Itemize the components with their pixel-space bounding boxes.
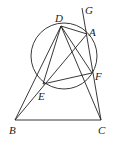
segment-D-A bbox=[61, 26, 87, 34]
label-B: B bbox=[9, 124, 16, 136]
label-D: D bbox=[54, 12, 63, 24]
line-G-C bbox=[82, 8, 101, 120]
label-C: C bbox=[98, 124, 106, 136]
label-A: A bbox=[88, 26, 96, 38]
label-F: F bbox=[94, 70, 102, 82]
geometry-diagram: D G A F E B C bbox=[0, 0, 117, 142]
label-E: E bbox=[37, 90, 45, 102]
label-G: G bbox=[85, 4, 93, 16]
